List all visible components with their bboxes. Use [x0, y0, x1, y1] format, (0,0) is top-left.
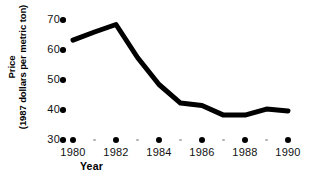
plot-area [0, 0, 314, 179]
line-chart-figure: Price (1987 dollars per metric ton) 3040… [0, 0, 314, 179]
price-series-line [73, 25, 288, 116]
